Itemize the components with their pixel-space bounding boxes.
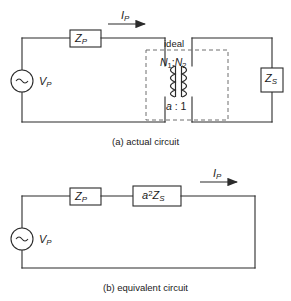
a-ratio-label: a : 1	[166, 101, 186, 112]
ideal-label: ideal	[164, 39, 184, 49]
current-label-a: IP	[121, 10, 129, 23]
circuit-a-wires	[22, 30, 272, 122]
caption-a: (a) actual circuit	[0, 136, 291, 147]
primary-coil	[171, 66, 176, 97]
secondary-coil	[182, 66, 187, 97]
zs-label: ZS	[265, 73, 277, 86]
current-label-b: IP	[213, 168, 221, 181]
transformer-circuit-figure: ZP IP VP ideal N1:N2 a : 1 ZS (a) actual…	[0, 0, 291, 301]
transformer-core	[176, 66, 182, 97]
source-voltage-label-b: VP	[39, 234, 52, 247]
caption-b: (b) equivalent circuit	[0, 282, 291, 293]
a2zs-label: a2ZS	[142, 190, 165, 203]
zp-label-b: ZP	[75, 191, 87, 204]
circuit-drawing	[0, 0, 291, 301]
turns-ratio-label: N1:N2	[160, 57, 187, 69]
circuit-b-wires	[22, 186, 255, 268]
zp-label-a: ZP	[75, 33, 87, 46]
ideal-transformer-boundary	[146, 50, 228, 120]
source-voltage-label-a: VP	[39, 76, 52, 89]
